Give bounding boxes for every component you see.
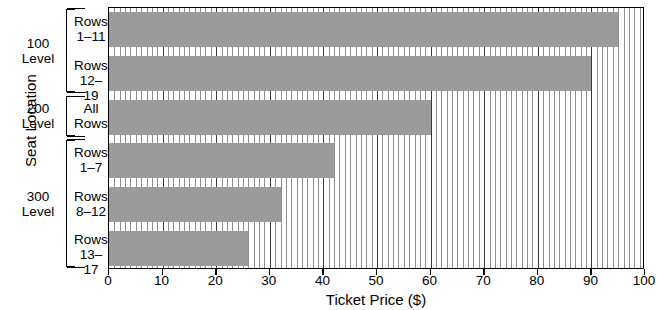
x-tick-label: 70 [458, 273, 508, 288]
category-label-rows-13-17: Rows 13–17 [74, 232, 108, 277]
category-label-line2: 1–11 [74, 29, 108, 44]
category-label-rows-1-11: Rows 1–11 [74, 14, 108, 44]
x-axis-tick-labels: 0102030405060708090100 [108, 273, 644, 291]
category-label-line1: Rows [74, 232, 108, 247]
gridline [618, 8, 619, 268]
x-tick-label: 50 [351, 273, 401, 288]
category-label-rows-12-19: Rows 12–19 [74, 58, 108, 103]
plot-area [108, 7, 644, 269]
group-label-line2: Level [16, 116, 60, 131]
x-tick-label: 20 [190, 273, 240, 288]
category-label-line2: 8–12 [74, 204, 108, 219]
group-label-line2: Level [16, 204, 60, 219]
category-label-rows-1-7: Rows 1–7 [74, 145, 108, 175]
bar-chart: Seat Location 100 Level 200 Level 300 Le… [0, 0, 658, 310]
x-tick-label: 10 [137, 273, 187, 288]
x-axis-title: Ticket Price ($) [108, 291, 644, 308]
x-tick-label: 40 [297, 273, 347, 288]
category-label-line1: Rows [74, 145, 108, 160]
category-label-line1: All [74, 101, 108, 116]
group-label-line1: 100 [16, 36, 60, 51]
category-label-line2: 12–19 [74, 73, 108, 103]
group-label-line2: Level [16, 51, 60, 66]
category-label-rows-8-12: Rows 8–12 [74, 189, 108, 219]
bar-rows-12-19 [109, 56, 591, 91]
bar-rows-8-12 [109, 187, 281, 222]
x-tick-label: 0 [83, 273, 133, 288]
category-label-line1: Rows [74, 14, 108, 29]
group-label-300-level: 300 Level [16, 189, 60, 219]
x-tick-label: 60 [405, 273, 455, 288]
bar-rows-13-17 [109, 231, 248, 266]
x-tick-label: 80 [512, 273, 562, 288]
category-label-all-rows: All Rows [74, 101, 108, 131]
gridline [624, 8, 625, 268]
category-label-line2: Rows [74, 116, 108, 131]
group-label-line1: 300 [16, 189, 60, 204]
group-label-200-level: 200 Level [16, 101, 60, 131]
category-label-line1: Rows [74, 189, 108, 204]
x-tick-label: 100 [619, 273, 658, 288]
bar-all-rows [109, 100, 431, 135]
category-label-line2: 1–7 [74, 160, 108, 175]
group-label-line1: 200 [16, 101, 60, 116]
x-tick-label: 90 [565, 273, 615, 288]
bar-rows-1-11 [109, 12, 618, 47]
gridline [634, 8, 635, 268]
bar-rows-1-7 [109, 143, 334, 178]
gridline [640, 8, 641, 268]
x-tick-label: 30 [244, 273, 294, 288]
gridline [629, 8, 630, 268]
group-label-100-level: 100 Level [16, 36, 60, 66]
category-label-line1: Rows [74, 58, 108, 73]
